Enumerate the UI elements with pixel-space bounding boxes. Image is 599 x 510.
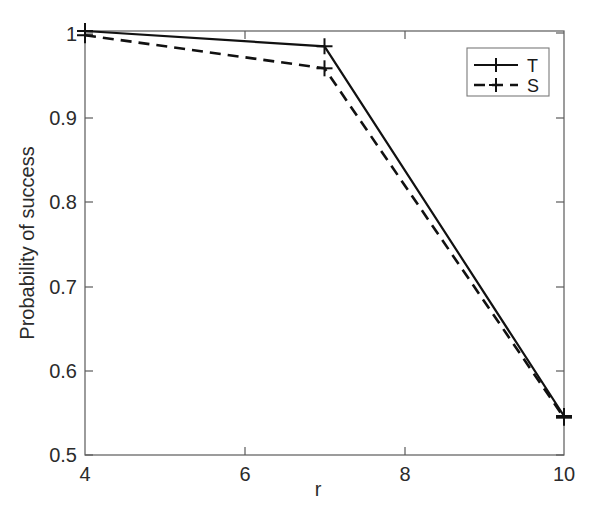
x-axis-ticks — [245, 31, 405, 455]
x-tick-label-6: 6 — [239, 463, 250, 485]
y-tick-label-1: 1 — [66, 23, 77, 45]
y-axis-title: Probability of success — [16, 146, 38, 339]
chart-legend: T S — [467, 48, 549, 96]
y-tick-label-0.8: 0.8 — [49, 191, 77, 213]
y-tick-label-0.5: 0.5 — [49, 444, 77, 466]
y-tick-label-0.6: 0.6 — [49, 360, 77, 382]
legend-label-S: S — [527, 76, 539, 96]
x-tick-label-10: 10 — [553, 463, 575, 485]
chart-figure: 0.5 0.6 0.7 0.8 0.9 1 4 6 8 10 r Probabi… — [0, 0, 599, 510]
line-chart: 0.5 0.6 0.7 0.8 0.9 1 4 6 8 10 r Probabi… — [0, 0, 599, 510]
legend-label-T: T — [527, 56, 538, 76]
x-tick-label-8: 8 — [399, 463, 410, 485]
y-tick-label-0.7: 0.7 — [49, 276, 77, 298]
y-tick-label-0.9: 0.9 — [49, 107, 77, 129]
x-axis-title: r — [315, 478, 322, 500]
x-tick-label-4: 4 — [79, 463, 90, 485]
